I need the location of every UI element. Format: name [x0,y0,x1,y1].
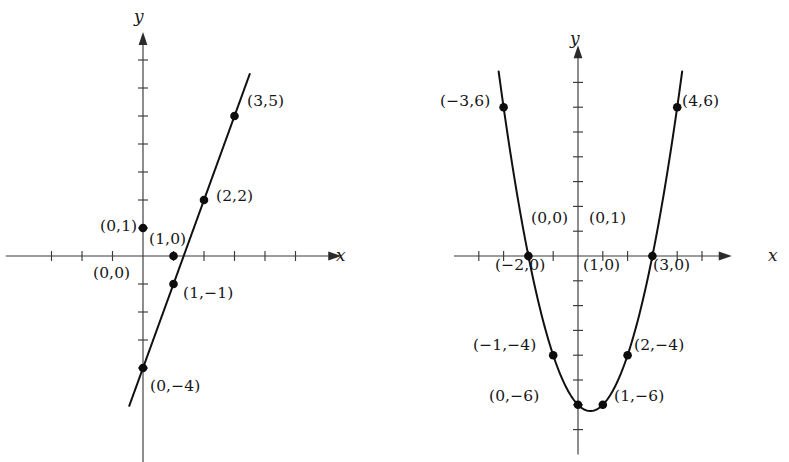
point-label: (2,2) [216,189,253,205]
point-label: (−1,−4) [473,338,536,354]
point-label: (1,−6) [614,389,664,405]
point-label: (2,−4) [634,338,684,354]
point-label: (−3,6) [440,94,490,110]
data-point-marker [499,103,508,112]
data-point-marker [549,351,558,360]
point-label: (3,0) [653,258,690,274]
data-point-marker [599,401,608,410]
point-label: (3,5) [247,94,284,110]
point-label: (4,6) [682,94,719,110]
line-path-group [129,74,249,406]
parabola-graph-canvas [395,0,789,462]
data-point-marker [200,196,209,205]
point-label: (1,0) [149,232,186,248]
point-label: (0,−4) [150,379,200,395]
parabola-path-group [499,71,683,411]
y-axis-label: y [570,30,580,47]
reference-point-marker [139,224,148,233]
point-label: (1,0) [583,258,620,274]
point-label: (0,0) [93,266,130,282]
point-label: (−2,0) [495,258,545,274]
x-axis-label: x [336,247,346,264]
x-axis-label: x [768,247,778,264]
line-graph-panel: x y (3,5) (2,2) (0,1) (1,0) (0,0) (1,−1)… [0,0,395,462]
data-point-marker [623,351,632,360]
data-point-marker [230,112,239,121]
point-label: (1,−1) [183,286,233,302]
x-axis-arrowhead [719,252,732,261]
parabola-curve [499,71,683,411]
point-label: (0,1) [589,211,626,227]
parabola-graph-panel [395,0,789,462]
y-axis-label: y [134,8,144,25]
data-point-marker [673,103,682,112]
data-point-marker [169,280,178,289]
figure-root: x y (3,5) (2,2) (0,1) (1,0) (0,0) (1,−1)… [0,0,789,462]
data-point-marker [139,364,148,373]
y-axis-arrowhead [139,32,148,45]
reference-point-marker [169,252,178,261]
point-label: (0,1) [100,219,137,235]
point-label: (0,0) [531,211,568,227]
data-point-marker [574,401,583,410]
line-curve [129,74,249,406]
point-label: (0,−6) [489,389,539,405]
